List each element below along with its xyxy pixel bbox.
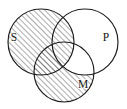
venn-diagram: S P M xyxy=(0,0,127,109)
circle-label-m: M xyxy=(78,78,88,90)
venn-diagram-canvas: S P M xyxy=(0,0,127,109)
circle-label-s: S xyxy=(11,31,17,43)
circle-label-p: P xyxy=(103,31,109,43)
